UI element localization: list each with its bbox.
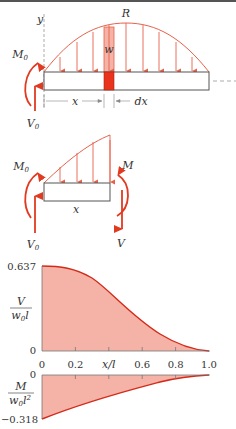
- shear-axis-denominator: w0l: [11, 309, 29, 323]
- shear-fill: [42, 266, 209, 351]
- beam-segment: [44, 183, 110, 201]
- moment-axis-numerator: M: [14, 380, 27, 393]
- svg-text:1.0: 1.0: [201, 359, 217, 370]
- x-dimension-label: x: [72, 95, 79, 108]
- beam-element-dx: [104, 72, 114, 90]
- dimension-lines: [44, 94, 130, 108]
- loaded-beam-diagram: y R w: [11, 7, 236, 131]
- moment-M0-arrow: [25, 63, 38, 106]
- svg-text:0: 0: [39, 359, 45, 370]
- moment-fill: [42, 375, 209, 419]
- load-arrows: [60, 23, 192, 71]
- beam: [44, 72, 209, 90]
- fbd-M0-label: M0: [12, 160, 29, 174]
- top-border: [0, 0, 236, 2]
- M0-label: M0: [11, 48, 28, 62]
- fbd-M-label: M: [121, 159, 134, 172]
- free-body-diagram: x M0 V0 M V: [12, 135, 134, 252]
- segment-x-label: x: [73, 203, 80, 216]
- fbd-load-arrows: [60, 140, 110, 182]
- V0-label: V0: [27, 117, 40, 131]
- moment-min-label: −0.318: [1, 414, 38, 425]
- beam-shear-moment-figure: y R w: [0, 0, 236, 429]
- shear-chart: 0.637 0 V w0l: [7, 261, 210, 356]
- svg-text:0.6: 0.6: [134, 359, 150, 370]
- fbd-V-label: V: [117, 237, 126, 250]
- y-axis-label: y: [36, 13, 44, 26]
- moment-zero-label: 0: [30, 369, 36, 380]
- distributed-load-curve: [44, 23, 209, 72]
- fbd-V0-label: V0: [27, 238, 40, 252]
- resultant-label: R: [121, 7, 130, 20]
- moment-chart: 0 −0.318 M w0l2: [1, 369, 210, 425]
- dx-dimension-label: dx: [134, 95, 148, 108]
- svg-text:0.2: 0.2: [67, 359, 83, 370]
- svg-text:0.8: 0.8: [168, 359, 184, 370]
- shear-max-label: 0.637: [7, 261, 36, 272]
- shear-zero-label: 0: [30, 345, 36, 356]
- w-label: w: [104, 43, 114, 56]
- shear-axis-numerator: V: [17, 295, 26, 308]
- svg-text:x/l: x/l: [102, 358, 116, 371]
- fbd-M0-arrow: [25, 173, 38, 218]
- x-tick-labels: 0 0.2 x/l 0.6 0.8 1.0: [39, 358, 217, 371]
- moment-axis-denominator: w0l2: [9, 394, 31, 408]
